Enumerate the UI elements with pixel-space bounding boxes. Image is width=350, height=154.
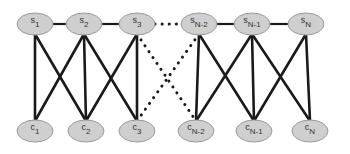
- node-c3: c3: [119, 120, 155, 142]
- node-sN: sN: [288, 13, 324, 35]
- node-s1: s1: [17, 13, 53, 35]
- edge-sN-2-cN-2: [196, 34, 199, 121]
- edges-layer: [35, 24, 310, 121]
- node-cN-2: cN-2: [178, 120, 214, 142]
- node-c2: c2: [68, 120, 104, 142]
- node-sN-2: sN-2: [181, 13, 217, 35]
- edge-sN-2-c3: [137, 34, 199, 121]
- edge-sN-1-cN-1: [252, 34, 254, 121]
- bipartite-graph-diagram: s1s2s3sN-2sN-1sNc1c2c3cN-2cN-1cN: [0, 0, 350, 154]
- edge-sN-1-cN-2: [196, 34, 252, 121]
- node-sN-1: sN-1: [234, 13, 270, 35]
- node-cN-1: cN-1: [236, 120, 272, 142]
- edge-sN-2-cN-1: [199, 34, 254, 121]
- node-s2: s2: [66, 13, 102, 35]
- node-c1: c1: [17, 120, 53, 142]
- edge-sN-cN: [306, 34, 310, 121]
- edge-s2-c2: [84, 34, 86, 121]
- node-s3: s3: [119, 13, 155, 35]
- node-cN: cN: [292, 120, 328, 142]
